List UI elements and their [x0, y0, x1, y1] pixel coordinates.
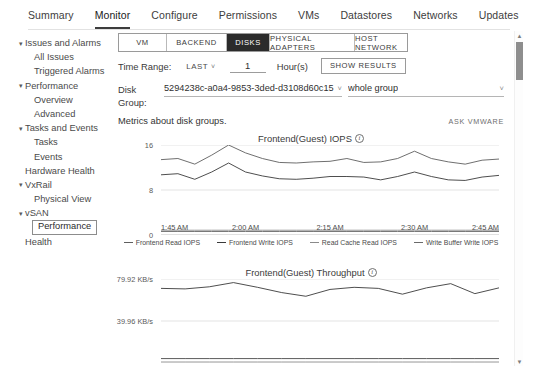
top-navigation-divider [28, 29, 510, 30]
sidebar-item-overview[interactable]: Overview [0, 93, 113, 107]
sidebar-item-tasks[interactable]: Tasks [0, 135, 113, 149]
disk-group-scope-value: whole group [348, 83, 398, 93]
sidebar-item-label: vSAN [25, 208, 49, 218]
sidebar-item-tasks-and-events[interactable]: ▾Tasks and Events [0, 121, 113, 135]
y-axis-tick-label: 16 [115, 141, 157, 150]
series-line [161, 145, 499, 164]
monitor-sidebar-tree: ▾Issues and AlarmsAll IssuesTriggered Al… [0, 33, 113, 366]
disk-group-uuid-dropdown[interactable]: 5294238c-a0a4-9853-3ded-d3108d60c15 ˅ [164, 83, 342, 97]
chevron-down-icon[interactable]: ▾ [16, 181, 25, 188]
metrics-caption-row: Metrics about disk groups. ASK VMWARE [118, 116, 504, 126]
sidebar-item-label: Health [25, 237, 52, 247]
chevron-down-icon[interactable]: ▾ [16, 82, 25, 89]
time-range-mode-dropdown[interactable]: LAST ˅ [186, 62, 215, 71]
legend-swatch-icon [310, 242, 319, 243]
disk-group-label: Disk Group: [118, 83, 158, 109]
scope-tab-phys[interactable]: PHYSICAL ADAPTERS [270, 34, 355, 51]
vsphere-client-window: SummaryMonitorConfigurePermissionsVMsDat… [0, 0, 538, 366]
sidebar-item-label: Tasks and Events [25, 123, 98, 133]
info-icon[interactable]: i [355, 134, 364, 143]
chart-title: Frontend(Guest) IOPS i [115, 131, 507, 145]
y-axis-tick-label: 79.92 KB/s [115, 275, 157, 284]
disk-group-selector-row: Disk Group: 5294238c-a0a4-9853-3ded-d310… [118, 83, 504, 111]
disk-group-label-line2: Group: [118, 96, 158, 109]
chart-title: Frontend(Guest) Throughput i [115, 265, 507, 279]
chart-title-text: Frontend(Guest) IOPS [258, 133, 352, 144]
metrics-caption-text: Metrics about disk groups. [118, 116, 227, 126]
sidebar-item-label: Hardware Health [25, 166, 95, 176]
sidebar-item-label: All Issues [34, 52, 74, 62]
chevron-down-icon: ˅ [211, 63, 216, 70]
metric-scope-tab-group: VMBACKENDDISKSPHYSICAL ADAPTERSHOST NETW… [118, 33, 408, 52]
sidebar-item-all-issues[interactable]: All Issues [0, 50, 113, 64]
sidebar-item-performance[interactable]: ▾Performance [0, 79, 113, 93]
disk-group-scope-dropdown[interactable]: whole group ˅ [348, 83, 504, 97]
scroll-up-arrow-icon[interactable]: ▲ [515, 31, 524, 40]
sidebar-item-hardware-health[interactable]: Hardware Health [0, 164, 113, 178]
chart-frontend-guest-throughput: Frontend(Guest) Throughput i 39.96 KB/s7… [115, 265, 507, 366]
legend-label: Frontend Read IOPS [136, 239, 200, 246]
scrollbar-thumb[interactable] [516, 42, 523, 80]
chevron-down-icon[interactable]: ▾ [16, 125, 25, 132]
sidebar-item-label: Performance [32, 220, 97, 235]
y-axis-tick-label: 39.96 KB/s [115, 317, 157, 326]
sidebar-item-events[interactable]: Events [0, 150, 113, 164]
chart-svg-container [161, 145, 499, 235]
series-line [161, 163, 499, 180]
legend-item[interactable]: Frontend Read IOPS [124, 239, 200, 246]
info-icon[interactable]: i [368, 268, 377, 277]
sidebar-item-label: Advanced [34, 109, 75, 119]
ask-vmware-link[interactable]: ASK VMWARE [449, 117, 504, 126]
show-results-button[interactable]: SHOW RESULTS [321, 58, 406, 75]
legend-label: Frontend Write IOPS [229, 239, 293, 246]
y-axis-labels: 39.96 KB/s79.92 KB/s [115, 279, 161, 363]
time-range-unit-label: Hour(s) [277, 61, 308, 72]
legend-swatch-icon [414, 242, 423, 243]
top-tab-vms[interactable]: VMs [298, 9, 319, 27]
legend-swatch-icon [124, 242, 133, 243]
sidebar-item-physical-view[interactable]: Physical View [0, 192, 113, 206]
sidebar-item-label: Triggered Alarms [34, 66, 104, 76]
scope-tab-host[interactable]: HOST NETWORK [355, 34, 405, 51]
chart-frontend-guest-iops: Frontend(Guest) IOPS i 0816 1:45 AM2:00 … [115, 131, 507, 263]
top-tab-configure[interactable]: Configure [151, 9, 197, 27]
sidebar-item-issues-and-alarms[interactable]: ▾Issues and Alarms [0, 36, 113, 50]
sidebar-item-vsan[interactable]: ▾vSAN [0, 206, 113, 220]
sidebar-item-health[interactable]: Health [0, 235, 113, 249]
x-axis-labels: 1:45 AM2:00 AM2:15 AM2:30 AM2:45 AM [161, 223, 499, 235]
sidebar-item-triggered-alarms[interactable]: Triggered Alarms [0, 64, 113, 78]
vertical-scrollbar[interactable]: ▲ ▼ [514, 31, 523, 366]
time-range-value-input[interactable] [230, 60, 266, 73]
scope-tab-vm[interactable]: VM [119, 34, 167, 51]
chevron-down-icon[interactable]: ▾ [16, 210, 25, 217]
sidebar-item-performance[interactable]: Performance [0, 220, 113, 234]
scroll-down-arrow-icon[interactable]: ▼ [515, 357, 524, 366]
sidebar-item-label: VxRail [25, 180, 52, 190]
chevron-down-icon: ˅ [500, 83, 504, 94]
top-tab-networks[interactable]: Networks [413, 9, 458, 27]
top-navigation-tabs: SummaryMonitorConfigurePermissionsVMsDat… [0, 0, 538, 30]
top-tab-updates[interactable]: Updates [479, 9, 519, 27]
top-tab-permissions[interactable]: Permissions [219, 9, 277, 27]
x-axis-tick-label: 2:00 AM [232, 223, 259, 232]
top-tab-monitor[interactable]: Monitor [95, 9, 131, 29]
sidebar-item-vxrail[interactable]: ▾VxRail [0, 178, 113, 192]
legend-item[interactable]: Read Cache Read IOPS [310, 239, 397, 246]
scope-tab-backend[interactable]: BACKEND [167, 34, 227, 51]
y-axis-labels: 0816 [115, 145, 161, 235]
legend-swatch-icon [217, 242, 226, 243]
sidebar-item-label: Issues and Alarms [25, 38, 101, 48]
top-tab-summary[interactable]: Summary [28, 9, 74, 27]
chart-legend: Frontend Read IOPSFrontend Write IOPSRea… [115, 239, 507, 246]
chevron-down-icon: ˅ [338, 83, 342, 94]
legend-item[interactable]: Frontend Write IOPS [217, 239, 293, 246]
legend-label: Write Buffer Write IOPS [426, 239, 498, 246]
chevron-down-icon[interactable]: ▾ [16, 40, 25, 47]
legend-item[interactable]: Write Buffer Write IOPS [414, 239, 498, 246]
x-axis-tick-label: 2:30 AM [401, 223, 428, 232]
time-range-controls: Time Range: LAST ˅ Hour(s) SHOW RESULTS [118, 57, 418, 75]
scope-tab-disks[interactable]: DISKS [227, 34, 270, 51]
top-tab-datastores[interactable]: Datastores [340, 9, 392, 27]
sidebar-item-advanced[interactable]: Advanced [0, 107, 113, 121]
chart-svg-container [161, 279, 499, 363]
